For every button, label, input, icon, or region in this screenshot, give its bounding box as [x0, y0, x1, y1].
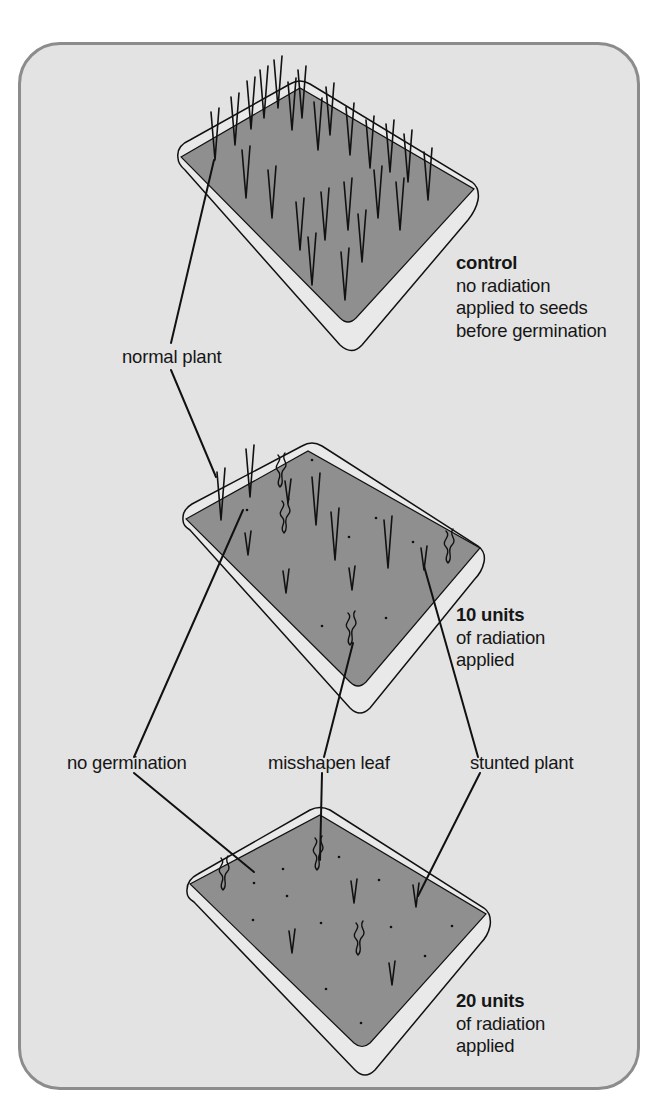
- caption-twenty-units: 20 units of radiation applied: [456, 990, 545, 1058]
- control-tray: [178, 56, 479, 351]
- caption-control-line: applied to seeds: [456, 297, 607, 320]
- callout-misshapen-leaf: misshapen leaf: [268, 752, 390, 774]
- caption-ten-units-line: of radiation: [456, 627, 545, 650]
- ten-units-tray: [183, 443, 484, 713]
- caption-ten-units: 10 units of radiation applied: [456, 604, 545, 672]
- seed-radiation-illustration: [0, 0, 659, 1115]
- caption-control-line: before germination: [456, 320, 607, 343]
- caption-control-title: control: [456, 252, 607, 275]
- caption-ten-units-line: applied: [456, 649, 545, 672]
- callout-stunted-plant: stunted plant: [470, 752, 573, 774]
- callout-no-germination: no germination: [67, 752, 187, 774]
- caption-twenty-units-line: of radiation: [456, 1013, 545, 1036]
- caption-control: control no radiation applied to seeds be…: [456, 252, 607, 342]
- caption-control-line: no radiation: [456, 275, 607, 298]
- caption-ten-units-title: 10 units: [456, 604, 545, 627]
- caption-twenty-units-line: applied: [456, 1035, 545, 1058]
- twenty-units-tray: [187, 808, 490, 1076]
- callout-normal-plant: normal plant: [122, 346, 221, 368]
- caption-twenty-units-title: 20 units: [456, 990, 545, 1013]
